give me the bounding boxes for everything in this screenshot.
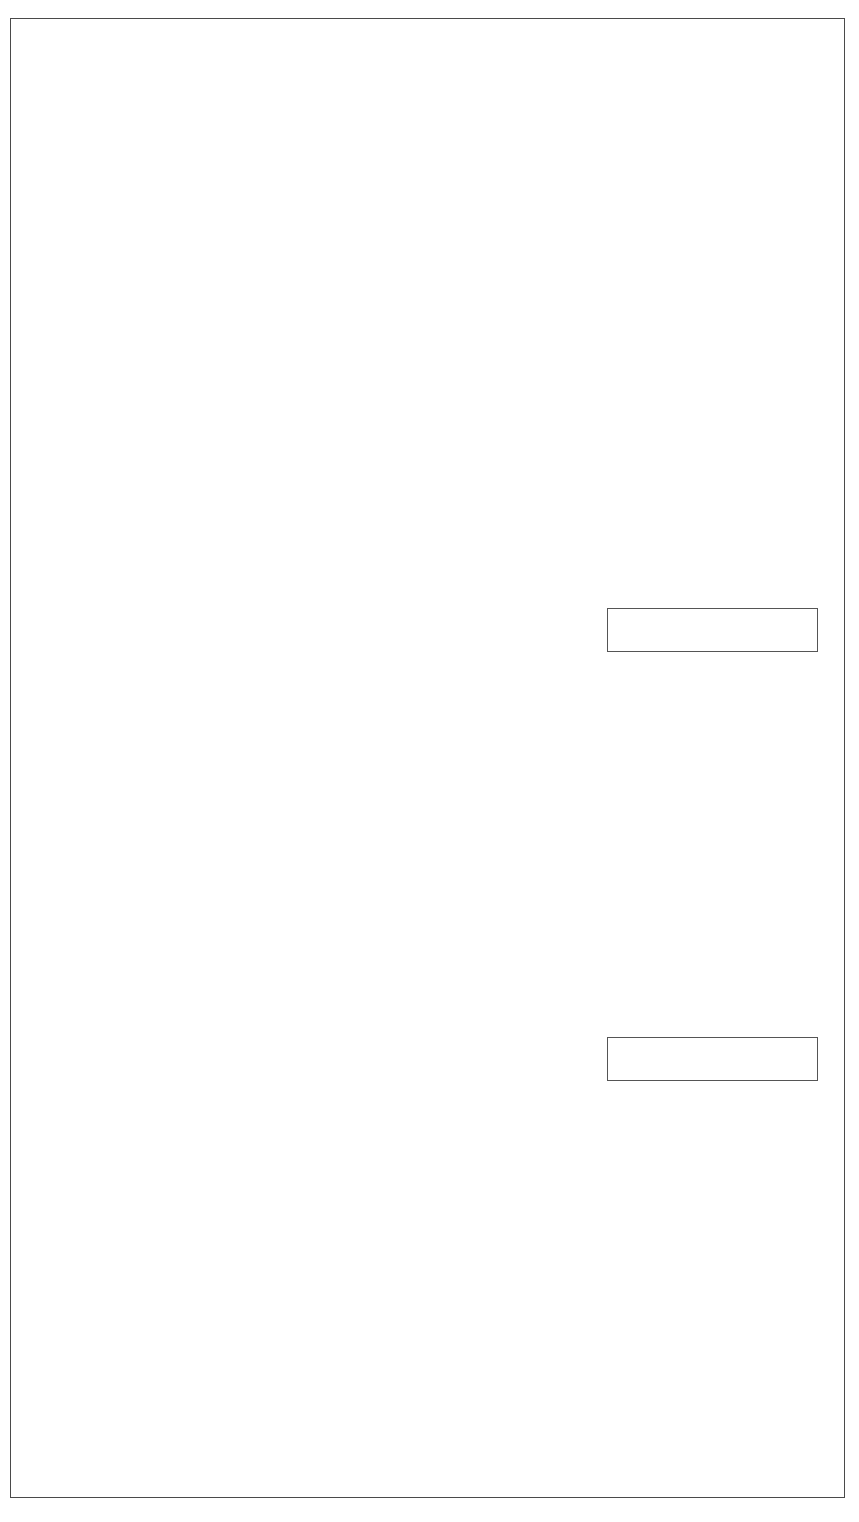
swinglow-stats-box: [607, 1037, 818, 1081]
swinglow-plot: [11, 919, 631, 1299]
panel-swinglow: [11, 919, 631, 1359]
swinghigh-plot: [11, 519, 631, 889]
panel-timeseries: [11, 19, 631, 489]
figure-page: [0, 0, 859, 1522]
figure-frame: [10, 18, 845, 1498]
stats-spacer: [620, 1047, 807, 1059]
swinghigh-stats-box: [607, 608, 818, 652]
timeseries-plot: [11, 19, 631, 439]
stats-spacer-2: [620, 1059, 807, 1071]
panel-swinghigh: [11, 519, 631, 939]
stats-spacer: [620, 618, 807, 630]
stats-spacer-2: [620, 630, 807, 642]
